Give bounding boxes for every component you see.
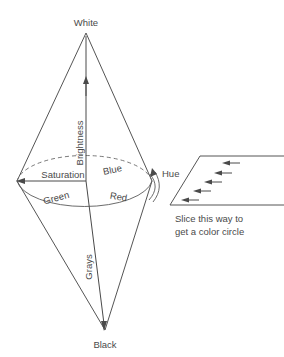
slice-left-edge — [170, 156, 200, 205]
slice-arrow-3 — [204, 180, 222, 185]
lower-cone-right-edge — [105, 181, 152, 330]
label-blue: Blue — [102, 162, 123, 177]
slice-caption-line1: Slice this way to — [175, 213, 243, 224]
label-saturation: Saturation — [41, 169, 84, 180]
upper-cone-right-edge — [86, 33, 152, 181]
label-white: White — [74, 17, 98, 28]
brightness-arrow-head — [83, 76, 89, 84]
hue-arc-outer — [153, 172, 159, 202]
diagram-canvas: White Black Brightness Grays Saturation … — [0, 0, 284, 357]
brightness-axis — [83, 36, 107, 331]
slice-arrow-5 — [181, 198, 199, 203]
label-hue: Hue — [162, 168, 179, 179]
slice-arrow-1 — [222, 161, 240, 166]
slice-caption-line2: get a color circle — [175, 226, 244, 237]
hue-arrow-head — [150, 168, 157, 177]
ellipse-front-arc-solid — [17, 181, 152, 206]
hsb-color-model-diagram: White Black Brightness Grays Saturation … — [0, 0, 284, 357]
slice-arrow-2 — [214, 171, 232, 176]
slice-arrow-4 — [193, 189, 211, 194]
label-brightness: Brightness — [74, 120, 85, 165]
label-red: Red — [109, 190, 128, 204]
label-grays: Grays — [83, 254, 94, 280]
label-black: Black — [93, 339, 116, 350]
slice-direction-arrows — [181, 161, 240, 203]
